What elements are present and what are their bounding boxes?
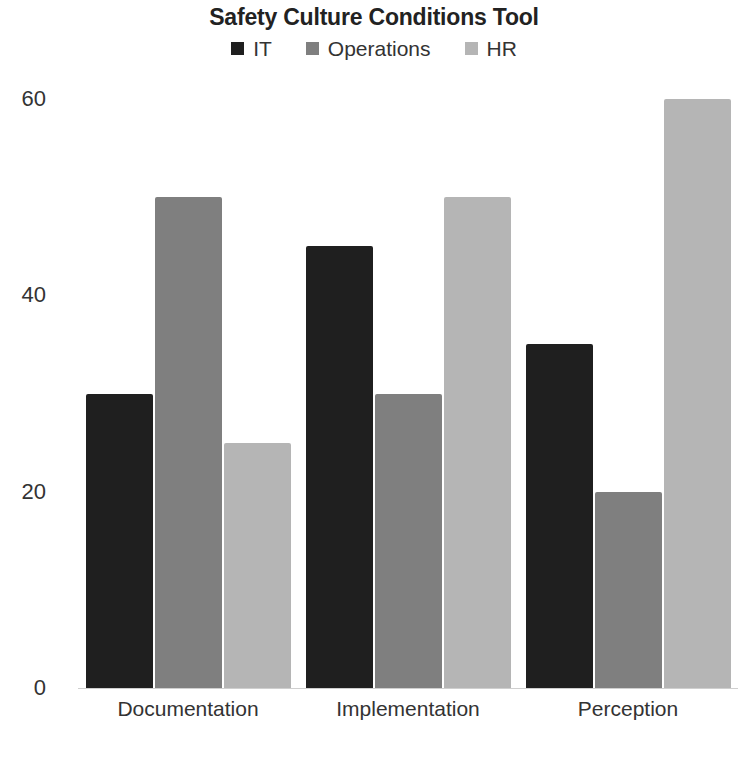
y-axis-tick-label: 20: [0, 479, 46, 505]
legend-swatch-icon: [465, 42, 478, 55]
bar-it-implementation[interactable]: [306, 246, 373, 688]
bar-chart: Safety Culture Conditions Tool ITOperati…: [0, 0, 748, 768]
bar-operations-perception[interactable]: [595, 492, 662, 688]
bar-hr-implementation[interactable]: [444, 197, 511, 688]
legend-item-operations[interactable]: Operations: [306, 38, 431, 59]
y-axis-tick-label: 60: [0, 86, 46, 112]
chart-title: Safety Culture Conditions Tool: [0, 4, 748, 31]
bar-group: [526, 99, 731, 688]
y-axis-tick-label: 40: [0, 282, 46, 308]
legend-label: HR: [487, 38, 517, 59]
bar-hr-documentation[interactable]: [224, 443, 291, 688]
legend-item-hr[interactable]: HR: [465, 38, 517, 59]
legend-swatch-icon: [306, 42, 319, 55]
legend-swatch-icon: [231, 42, 244, 55]
x-axis-line: [78, 688, 738, 689]
bar-group: [86, 99, 291, 688]
bar-hr-perception[interactable]: [664, 99, 731, 688]
legend-label: IT: [253, 38, 272, 59]
x-axis-tick-label: Perception: [578, 697, 678, 721]
bar-it-documentation[interactable]: [86, 394, 153, 689]
plot-area: [78, 99, 738, 688]
legend-label: Operations: [328, 38, 431, 59]
bar-group: [306, 99, 511, 688]
bar-it-perception[interactable]: [526, 344, 593, 688]
chart-legend: ITOperationsHR: [0, 38, 748, 59]
legend-item-it[interactable]: IT: [231, 38, 272, 59]
y-axis-tick-label: 0: [0, 675, 46, 701]
bar-operations-documentation[interactable]: [155, 197, 222, 688]
x-axis-tick-label: Implementation: [336, 697, 480, 721]
x-axis-tick-label: Documentation: [117, 697, 258, 721]
bar-operations-implementation[interactable]: [375, 394, 442, 689]
